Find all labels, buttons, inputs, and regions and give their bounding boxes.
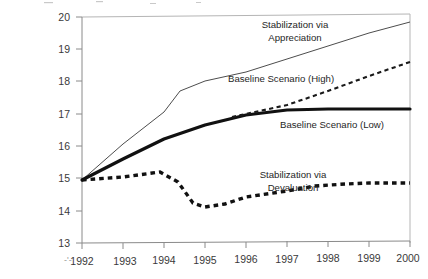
x-tick-label-1994: 1994 — [152, 254, 176, 266]
plot-top-rule — [82, 14, 410, 17]
x-tick-label-1999: 1999 — [357, 252, 381, 264]
y-tick-label-20: 20 — [58, 11, 70, 23]
y-axis-ticks — [76, 17, 82, 243]
x-tick-label-1995: 1995 — [193, 254, 217, 266]
annotation-appreciation-line2: Appreciation — [268, 32, 321, 43]
x-tick-label-1993: 1993 — [113, 255, 137, 267]
y-tick-label-19: 19 — [58, 43, 70, 55]
y-tick-label-14: 14 — [58, 205, 70, 217]
scan-artifact-glyph: -'- — [64, 255, 72, 265]
annotation-devaluation-line2: Devaluation — [268, 182, 319, 193]
annotation-baseline-low: Baseline Scenario (Low) — [280, 119, 384, 130]
x-tick-label-1997: 1997 — [275, 253, 299, 265]
y-tick-label-13: 13 — [58, 237, 70, 249]
annotation-devaluation-line1: Stabilization via — [260, 169, 327, 180]
y-tick-label-15: 15 — [58, 172, 70, 184]
x-tick-label-1998: 1998 — [316, 252, 340, 264]
y-tick-label-18: 18 — [58, 75, 70, 87]
x-tick-label-1992: 1992 — [70, 255, 94, 267]
annotation-baseline-high: Baseline Scenario (High) — [228, 73, 334, 84]
line-chart: 20 19 18 17 16 15 14 13 1992 -'- 1993 19… — [0, 0, 428, 279]
series-stabilization-devaluation — [82, 172, 410, 207]
y-tick-label-16: 16 — [58, 140, 70, 152]
x-tick-label-2000: 2000 — [396, 252, 420, 264]
chart-container: 20 19 18 17 16 15 14 13 1992 -'- 1993 19… — [0, 0, 428, 279]
y-tick-label-17: 17 — [58, 108, 70, 120]
scan-artifacts — [44, 1, 201, 4]
annotation-appreciation-line1: Stabilization via — [262, 19, 329, 30]
x-tick-label-1996: 1996 — [234, 253, 258, 265]
